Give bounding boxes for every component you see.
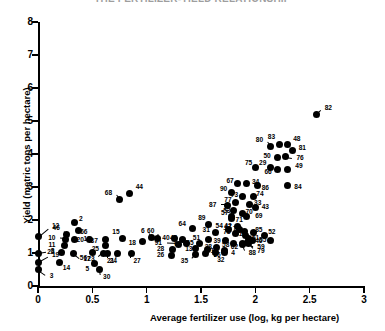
data-point-label: 26 (157, 252, 164, 259)
data-point-label: 40 (162, 235, 169, 242)
data-point-label: 53 (223, 208, 230, 215)
data-point[interactable] (102, 242, 109, 249)
data-point-label: 49 (295, 163, 302, 170)
data-point[interactable] (35, 250, 42, 257)
data-point[interactable] (284, 166, 291, 173)
data-point[interactable] (313, 111, 320, 118)
data-point[interactable] (104, 250, 111, 257)
data-point-label: 44 (136, 184, 143, 191)
data-point[interactable] (189, 225, 196, 232)
data-point-label: 3 (50, 273, 54, 280)
data-point[interactable] (205, 221, 212, 228)
data-point-label: 13 (185, 246, 192, 253)
data-point[interactable] (239, 193, 246, 200)
data-point[interactable] (232, 199, 239, 206)
data-point-label: 75 (245, 160, 252, 167)
data-point-label: 79 (257, 248, 264, 255)
data-point-label: 60 (147, 228, 154, 235)
data-point[interactable] (276, 141, 283, 148)
x-tick-label-2.5: 2.5 (290, 295, 330, 305)
data-point-label: 62 (231, 244, 238, 251)
data-point[interactable] (289, 147, 296, 154)
data-point-label: 11 (49, 242, 56, 249)
data-point-label: 74 (256, 191, 263, 198)
data-point-label: 20 (76, 237, 83, 244)
data-point[interactable] (61, 242, 68, 249)
data-point[interactable] (239, 240, 246, 247)
data-point[interactable] (205, 236, 212, 243)
x-tick-label-3: 3 (344, 295, 384, 305)
data-point-label: 81 (299, 145, 306, 152)
data-point-label: 35 (181, 258, 188, 265)
x-tick-label-1: 1 (127, 295, 167, 305)
data-point[interactable] (213, 244, 220, 251)
data-point[interactable] (234, 180, 241, 187)
data-point[interactable] (168, 252, 175, 259)
data-point[interactable] (267, 237, 274, 244)
data-point[interactable] (252, 164, 259, 171)
data-point[interactable] (284, 182, 291, 189)
data-point[interactable] (71, 219, 78, 226)
data-point-label: 87 (209, 202, 216, 209)
data-point-label: 29 (259, 160, 266, 167)
data-point[interactable] (274, 166, 281, 173)
plot-area: 012345678 00.511.522.53 3198121422111046… (0, 0, 385, 331)
data-point[interactable] (126, 190, 133, 197)
data-point[interactable] (58, 249, 65, 256)
data-point[interactable] (119, 235, 126, 242)
data-point-label: 36 (213, 252, 220, 259)
data-point[interactable] (252, 204, 259, 211)
data-point[interactable] (128, 250, 135, 257)
data-point[interactable] (179, 236, 186, 243)
x-tick-0 (37, 287, 38, 293)
data-point-label: 68 (105, 190, 112, 197)
x-tick-2 (255, 287, 256, 293)
data-point[interactable] (243, 213, 250, 220)
data-point-label: 30 (103, 274, 110, 281)
data-point[interactable] (96, 266, 103, 273)
data-point[interactable] (228, 189, 235, 196)
data-point-label: 28 (157, 246, 164, 253)
data-point[interactable] (116, 196, 123, 203)
y-axis-line (38, 22, 40, 287)
data-point-label: 25 (92, 246, 99, 253)
data-point[interactable] (35, 259, 42, 266)
x-tick-1 (146, 287, 147, 293)
data-point[interactable] (114, 250, 121, 257)
data-point[interactable] (267, 143, 274, 150)
data-point-label: 64 (179, 221, 186, 228)
data-point[interactable] (212, 229, 219, 236)
data-point-label: 6 (141, 228, 145, 235)
data-point-label: 56 (80, 255, 87, 262)
data-point-label: 52 (268, 229, 275, 236)
data-point[interactable] (86, 236, 93, 243)
data-point[interactable] (241, 228, 248, 235)
data-point[interactable] (274, 154, 281, 161)
data-point[interactable] (139, 238, 146, 245)
data-point-label: 66 (264, 169, 271, 176)
x-axis-title: Average fertilizer use (log, kg per hect… (150, 312, 339, 323)
data-point-label: 51 (193, 235, 200, 242)
x-tick-3 (363, 287, 364, 293)
data-point-label: 47 (224, 224, 231, 231)
y-tick-label-7: 7 (11, 50, 33, 60)
data-point-label: 43 (262, 204, 269, 211)
data-point[interactable] (102, 236, 109, 243)
data-point[interactable] (243, 180, 250, 187)
y-tick-label-1: 1 (11, 248, 33, 258)
y-axis-title: Yield (metric tons per hectare) (21, 66, 32, 246)
data-point[interactable] (282, 153, 289, 160)
data-point-label: 91 (155, 240, 162, 247)
data-point[interactable] (230, 207, 237, 214)
data-point-label: 10 (48, 235, 55, 242)
data-point-label: 90 (220, 186, 227, 193)
data-point[interactable] (63, 231, 70, 238)
data-point-label: 67 (226, 178, 233, 185)
x-tick-0.5 (92, 287, 93, 293)
data-point[interactable] (35, 233, 42, 240)
data-point-label: 55 (259, 237, 266, 244)
data-point[interactable] (35, 266, 42, 273)
data-point-label: 83 (268, 134, 275, 141)
data-point-label: 46 (53, 225, 60, 232)
data-point[interactable] (254, 182, 261, 189)
